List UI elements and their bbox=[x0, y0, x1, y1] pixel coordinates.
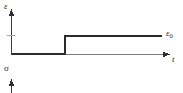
stress-axis-arrowhead bbox=[9, 79, 15, 86]
strain-plateau-label: ε0 bbox=[166, 29, 173, 39]
stress-vs-time-plot bbox=[0, 0, 183, 93]
stress-axis-label: σ bbox=[4, 64, 9, 73]
time-axis-label: t bbox=[172, 55, 175, 64]
stress-axis bbox=[9, 79, 15, 93]
strain-plateau-subscript: 0 bbox=[170, 32, 173, 39]
strain-axis-label: ε bbox=[4, 2, 8, 11]
figure-container: ε ε0 t σ bbox=[0, 0, 183, 93]
